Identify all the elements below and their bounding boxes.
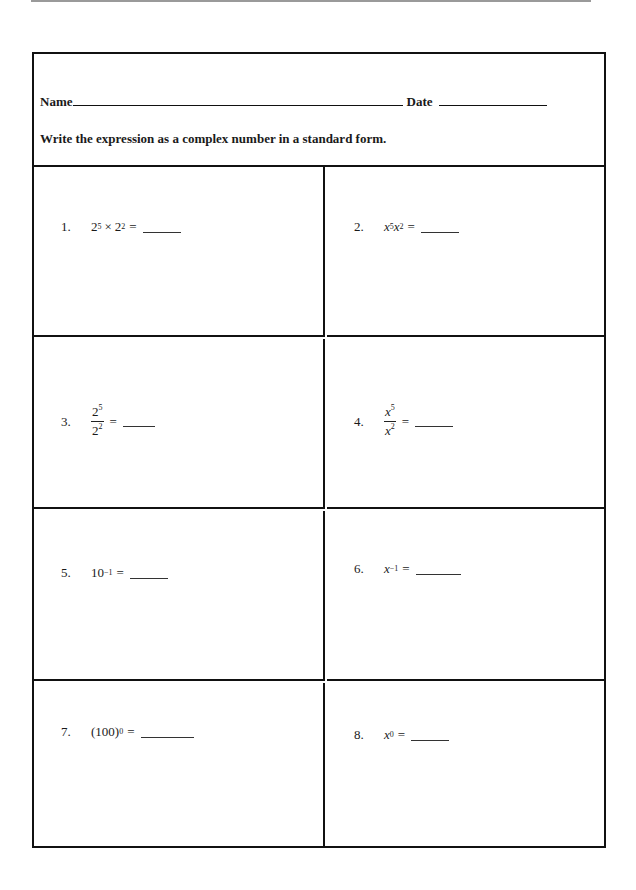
base: 2 <box>91 219 98 235</box>
problem-number: 4. <box>354 414 384 430</box>
problem-cell-7: 7. (100)0 = <box>34 683 325 846</box>
worksheet: Name Date Write the expression as a comp… <box>32 52 606 848</box>
problem-7: 7. (100)0 = <box>61 724 194 740</box>
equals-sign: = <box>117 565 124 581</box>
problem-cell-8: 8. x0 = <box>327 683 604 846</box>
exponent: 2 <box>391 422 395 431</box>
answer-blank[interactable] <box>416 564 461 575</box>
problem-cell-2: 2. x5 x2 = <box>327 167 604 337</box>
base: x <box>394 219 400 235</box>
problem-expression: (100)0 = <box>91 724 194 740</box>
problem-8: 8. x0 = <box>354 727 449 743</box>
problem-6: 6. x−1 = <box>354 561 461 577</box>
date-field[interactable] <box>439 93 547 106</box>
instructions: Write the expression as a complex number… <box>40 131 386 147</box>
base: x <box>384 561 390 577</box>
worksheet-header: Name Date Write the expression as a comp… <box>34 54 604 167</box>
answer-blank[interactable] <box>411 730 449 741</box>
exponent: 2 <box>99 422 103 431</box>
answer-blank[interactable] <box>421 222 459 233</box>
equals-sign: = <box>398 727 405 743</box>
problem-number: 8. <box>354 727 384 743</box>
denominator: x2 <box>385 422 395 438</box>
problem-cell-3: 3. 25 22 = <box>34 339 325 509</box>
exponent: 5 <box>99 403 103 412</box>
answer-blank[interactable] <box>123 416 155 427</box>
problem-expression: 25 × 22 = <box>91 219 181 235</box>
problem-number: 2. <box>354 219 384 235</box>
date-label: Date <box>407 94 433 110</box>
problem-number: 6. <box>354 561 384 577</box>
base: x <box>384 219 390 235</box>
operator: × <box>105 219 112 235</box>
name-date-line: Name Date <box>40 93 547 110</box>
problem-number: 3. <box>61 414 91 430</box>
problem-expression: x−1 = <box>384 561 461 577</box>
problem-expression: 25 22 = <box>91 405 155 438</box>
problem-expression: x0 = <box>384 727 449 743</box>
equals-sign: = <box>402 414 409 430</box>
problem-cell-5: 5. 10−1 = <box>34 511 325 681</box>
problem-number: 1. <box>61 219 91 235</box>
problem-3: 3. 25 22 = <box>61 405 155 438</box>
top-rule <box>31 0 591 2</box>
problem-expression: 10−1 = <box>91 565 168 581</box>
problem-2: 2. x5 x2 = <box>354 219 459 235</box>
problem-expression: x5 x2 = <box>384 405 453 438</box>
problem-cell-4: 4. x5 x2 = <box>327 339 604 509</box>
answer-blank[interactable] <box>141 727 194 738</box>
problem-5: 5. 10−1 = <box>61 565 168 581</box>
problem-number: 7. <box>61 724 91 740</box>
problem-cell-6: 6. x−1 = <box>327 511 604 681</box>
name-field[interactable] <box>73 93 403 106</box>
answer-blank[interactable] <box>415 416 453 427</box>
numerator: 25 <box>91 405 104 422</box>
problem-expression: x5 x2 = <box>384 219 459 235</box>
equals-sign: = <box>408 219 415 235</box>
equals-sign: = <box>127 724 134 740</box>
equals-sign: = <box>402 561 409 577</box>
problem-grid: 1. 25 × 22 = 2. x5 x2 = <box>34 167 604 846</box>
equals-sign: = <box>129 219 136 235</box>
exponent: 5 <box>391 403 395 412</box>
base: (100) <box>91 724 119 740</box>
denominator: 22 <box>92 422 103 438</box>
base: 10 <box>91 565 104 581</box>
problem-number: 5. <box>61 565 91 581</box>
fraction: 25 22 <box>91 405 104 438</box>
name-label: Name <box>40 94 73 110</box>
base: x <box>384 727 390 743</box>
equals-sign: = <box>110 414 117 430</box>
problem-1: 1. 25 × 22 = <box>61 219 181 235</box>
problem-cell-1: 1. 25 × 22 = <box>34 167 325 337</box>
numerator: x5 <box>384 405 396 422</box>
problem-4: 4. x5 x2 = <box>354 405 453 438</box>
answer-blank[interactable] <box>143 222 181 233</box>
answer-blank[interactable] <box>130 568 168 579</box>
fraction: x5 x2 <box>384 405 396 438</box>
